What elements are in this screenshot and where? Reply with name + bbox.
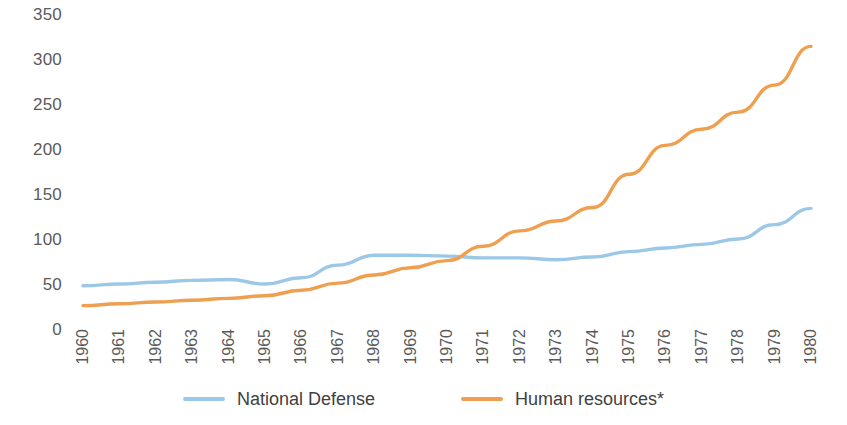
x-axis-tick-1962: 1962	[148, 329, 164, 385]
x-axis-tick-label: 1975	[621, 329, 637, 385]
legend-item-national-defense[interactable]: National Defense	[183, 389, 375, 409]
series-line-national-defense	[83, 208, 811, 285]
plot-area	[62, 14, 837, 329]
x-axis-tick-1978: 1978	[730, 329, 746, 385]
legend-label-national-defense: National Defense	[237, 389, 375, 409]
x-axis-tick-1964: 1964	[221, 329, 237, 385]
x-axis-tick-label: 1980	[803, 329, 819, 385]
x-axis-tick-1977: 1977	[694, 329, 710, 385]
x-axis-tick-label: 1965	[257, 329, 273, 385]
legend-swatch-national-defense	[183, 397, 225, 401]
chart-legend: National Defense Human resources*	[0, 384, 847, 414]
x-axis-tick-label: 1963	[184, 329, 200, 385]
x-axis-tick-label: 1978	[730, 329, 746, 385]
x-axis-tick-label: 1977	[694, 329, 710, 385]
x-axis-tick-1969: 1969	[403, 329, 419, 385]
x-axis-tick-1963: 1963	[184, 329, 200, 385]
x-axis-tick-1967: 1967	[330, 329, 346, 385]
x-axis-tick-1979: 1979	[767, 329, 783, 385]
x-axis-tick-1980: 1980	[803, 329, 819, 385]
y-axis-tick-200: 200	[0, 141, 62, 158]
y-axis-tick-350: 350	[0, 6, 62, 23]
legend-item-human-resources[interactable]: Human resources*	[461, 389, 664, 409]
x-axis-tick-1968: 1968	[366, 329, 382, 385]
x-axis-tick-1972: 1972	[512, 329, 528, 385]
legend-swatch-human-resources	[461, 397, 503, 401]
x-axis-tick-1970: 1970	[439, 329, 455, 385]
series-line-human-resources	[83, 46, 811, 305]
x-axis-tick-label: 1974	[585, 329, 601, 385]
x-axis-tick-label: 1970	[439, 329, 455, 385]
x-axis-tick-1961: 1961	[111, 329, 127, 385]
x-axis-tick-1976: 1976	[657, 329, 673, 385]
x-axis-tick-label: 1967	[330, 329, 346, 385]
x-axis-tick-label: 1969	[403, 329, 419, 385]
x-axis-tick-label: 1973	[548, 329, 564, 385]
plot-svg	[62, 14, 837, 329]
y-axis-tick-250: 250	[0, 96, 62, 113]
y-axis: 350300250200150100500	[0, 0, 62, 340]
x-axis-tick-1965: 1965	[257, 329, 273, 385]
y-axis-tick-150: 150	[0, 186, 62, 203]
x-axis-tick-label: 1962	[148, 329, 164, 385]
x-axis-tick-1960: 1960	[75, 329, 91, 385]
x-axis-tick-label: 1960	[75, 329, 91, 385]
x-axis-tick-1974: 1974	[585, 329, 601, 385]
y-axis-tick-100: 100	[0, 231, 62, 248]
legend-label-human-resources: Human resources*	[515, 389, 664, 409]
x-axis-tick-label: 1972	[512, 329, 528, 385]
y-axis-tick-0: 0	[0, 321, 62, 338]
x-axis-tick-label: 1964	[221, 329, 237, 385]
x-axis-tick-1966: 1966	[293, 329, 309, 385]
y-axis-tick-300: 300	[0, 51, 62, 68]
x-axis-tick-label: 1968	[366, 329, 382, 385]
x-axis-tick-label: 1979	[767, 329, 783, 385]
x-axis: 1960196119621963196419651966196719681969…	[62, 329, 837, 389]
x-axis-tick-label: 1971	[475, 329, 491, 385]
x-axis-tick-1971: 1971	[475, 329, 491, 385]
x-axis-tick-1975: 1975	[621, 329, 637, 385]
line-chart: 350300250200150100500 196019611962196319…	[0, 0, 847, 425]
x-axis-tick-label: 1961	[111, 329, 127, 385]
y-axis-tick-50: 50	[0, 276, 62, 293]
x-axis-tick-1973: 1973	[548, 329, 564, 385]
x-axis-tick-label: 1966	[293, 329, 309, 385]
x-axis-tick-label: 1976	[657, 329, 673, 385]
